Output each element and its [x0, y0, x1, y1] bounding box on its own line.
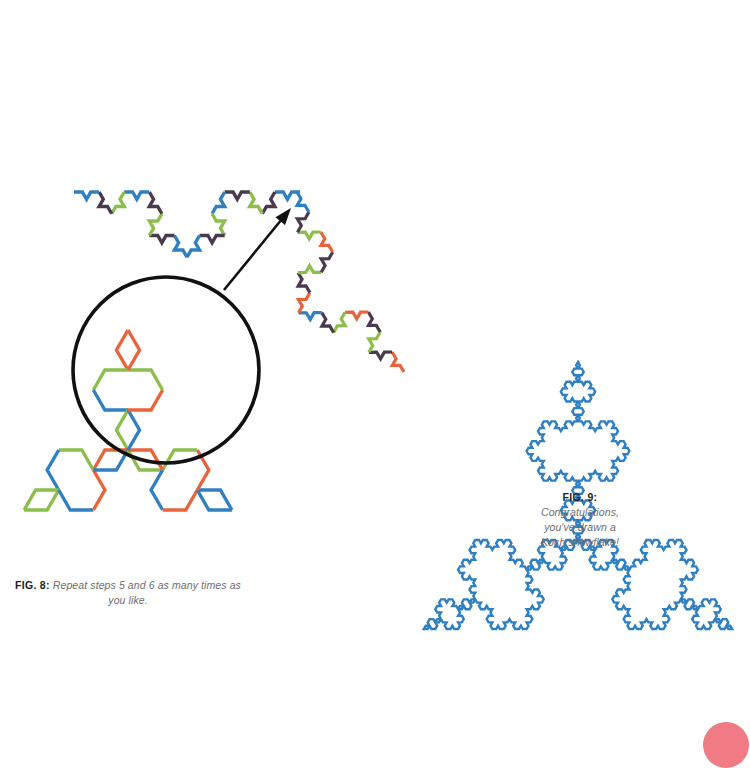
zoom-arrow-shaft [224, 217, 283, 290]
figure-9-text-line1: Congratulations, [512, 505, 648, 520]
koch-curve-middle-seg-12 [321, 232, 333, 252]
koch-snowflake-bottom-left-side-1-seg-5 [151, 470, 163, 510]
koch-snowflake-bottom-left-side-2-seg-4 [128, 410, 140, 450]
koch-snowflake-bottom-left-side-0-seg-0 [116, 330, 128, 370]
zoom-arrow [224, 208, 291, 290]
koch-curve-top-left-seg-9 [149, 235, 174, 242]
koch-curve-middle-seg-5 [334, 312, 346, 332]
koch-snowflake-bottom-left-side-0-seg-1 [93, 370, 128, 390]
figure-9-text-line3: Koch snowflake! [512, 535, 648, 550]
magnifier-circle [73, 277, 259, 463]
koch-curve-middle-seg-13 [298, 232, 321, 239]
koch-snowflake-bottom-left-side-1-seg-2 [93, 470, 105, 510]
koch-curve-middle-seg-2 [369, 332, 381, 352]
koch-snowflake-bottom-left-side-0-seg-3 [116, 410, 128, 450]
koch-curve-middle-seg-10 [298, 266, 321, 273]
koch-curve-middle-seg-1 [369, 352, 392, 359]
koch-curve-middle-seg-11 [321, 252, 333, 272]
koch-curve-top-left-seg-13 [112, 192, 125, 214]
koch-curve-top-left-seg-6 [200, 235, 225, 242]
figure-8-label: FIG. 8: [15, 579, 50, 591]
koch-curve-top-left-seg-11 [149, 192, 162, 214]
koch-curve-top-left-seg-5 [212, 214, 225, 236]
koch-snowflake-bottom-left-side-0-seg-5 [59, 450, 94, 470]
koch-snowflake-bottom-left-side-2-seg-6 [128, 370, 163, 390]
koch-curve-middle-seg-14 [297, 212, 309, 232]
koch-curve-middle-seg-15 [297, 192, 309, 212]
figure-9-caption: FIG. 9: Congratulations, you've drawn a … [512, 490, 648, 550]
koch-snowflake-bottom-left-side-0-seg-2 [93, 390, 128, 410]
page-number-badge [703, 722, 749, 768]
koch-curve-top-left-seg-1 [262, 192, 275, 214]
koch-curve-top-left-seg-15 [74, 192, 99, 199]
koch-curve-middle-seg-4 [345, 312, 368, 319]
koch-snowflake-bottom-left-side-2-seg-5 [128, 390, 163, 410]
koch-curve-middle-seg-7 [299, 313, 322, 320]
figure-8-caption: FIG. 8: Repeat steps 5 and 6 as many tim… [8, 578, 248, 608]
koch-curve-top-left-seg-3 [225, 192, 250, 199]
koch-curve-top-left-seg-4 [212, 192, 225, 214]
koch-curve-middle-seg-0 [392, 352, 404, 372]
koch-curve-top-left-seg-8 [174, 235, 187, 257]
koch-curve-middle-seg-6 [322, 313, 334, 333]
koch-snowflake-bottom-left-side-2-seg-7 [128, 330, 140, 370]
koch-curve-top-left-seg-14 [99, 192, 112, 214]
koch-curve-top-left-seg-2 [250, 192, 263, 214]
koch-curve-middle-seg-8 [298, 293, 310, 313]
koch-curve-top-left-seg-12 [124, 192, 149, 199]
figure-9-label: FIG. 9: [512, 490, 648, 505]
koch-curve-middle-seg-9 [298, 273, 310, 293]
koch-curve-middle-seg-3 [368, 312, 380, 332]
koch-snowflake-bottom-left-side-0-seg-6 [47, 450, 59, 490]
koch-snowflake-bottom-left-side-1-seg-1 [59, 490, 94, 510]
koch-curve-top-left-seg-7 [187, 235, 200, 257]
figure-9-text-line2: you've drawn a [512, 520, 648, 535]
koch-snowflake-bottom-left-side-1-seg-6 [163, 490, 198, 510]
koch-curve-top-left-seg-10 [149, 214, 162, 236]
figure-8-text-line1: Repeat steps 5 and 6 as many [53, 579, 198, 591]
